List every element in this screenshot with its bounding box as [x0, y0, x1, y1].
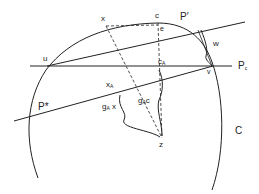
label-circle-c: C: [235, 126, 242, 136]
label-p-prime: P′: [180, 12, 189, 22]
label-e: e: [160, 25, 164, 32]
label-ga-x: gA x: [102, 103, 116, 111]
label-p-c: Pc: [238, 61, 247, 71]
dashed-chord-x-c: [106, 25, 158, 26]
line-w-upper: [198, 30, 212, 66]
label-p-c-sub: c: [245, 65, 248, 71]
label-z: z: [159, 141, 163, 149]
label-v: v: [207, 68, 211, 75]
label-p-c-main: P: [238, 60, 245, 71]
label-c: c: [155, 12, 159, 20]
label-x-a: xA: [106, 81, 113, 89]
label-ga-c: gAc: [138, 97, 150, 105]
curve-w: [201, 30, 212, 66]
label-c-a: cA: [158, 58, 165, 66]
label-x: x: [101, 15, 105, 23]
label-w: w: [213, 40, 219, 48]
diagram-canvas: [0, 0, 259, 194]
label-u: u: [43, 55, 47, 63]
circle-c-arc: [29, 23, 222, 190]
label-p-star: P*: [38, 102, 49, 112]
